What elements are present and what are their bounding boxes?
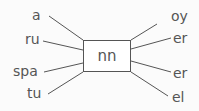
left-label-a: a	[32, 8, 41, 22]
right-label-el: el	[172, 90, 185, 104]
right-label-er-2: er	[173, 66, 187, 80]
right-label-oy: oy	[171, 9, 188, 23]
center-label: nn	[97, 47, 116, 65]
center-node: nn	[83, 40, 131, 72]
left-label-tu: tu	[27, 86, 41, 100]
left-label-ru: ru	[25, 32, 40, 46]
right-label-er-1: er	[173, 31, 187, 45]
left-label-spa: spa	[13, 64, 38, 78]
